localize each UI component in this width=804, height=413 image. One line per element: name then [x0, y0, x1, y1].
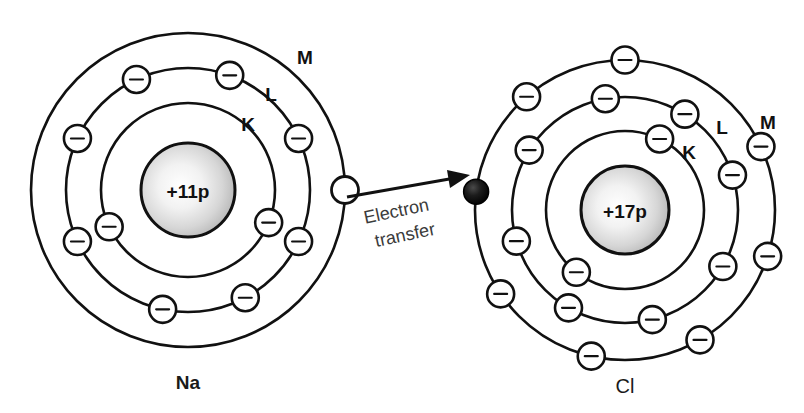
shell-label-L-chlorine: L	[716, 117, 728, 138]
nucleus-label-chlorine: +17p	[603, 201, 647, 222]
shell-label-L-sodium: L	[265, 84, 277, 105]
shell-label-M-chlorine: M	[760, 112, 776, 133]
electron-transfer-arrow	[347, 170, 470, 197]
electron-transfer-label: Electron transfer	[362, 194, 437, 252]
atom-symbol-sodium: Na	[176, 372, 201, 393]
atom-sodium: +11pKLMNa	[31, 33, 359, 393]
shell-label-K-sodium: K	[241, 114, 255, 135]
electron-vacancy	[332, 177, 359, 204]
atom-symbol-chlorine: Cl	[616, 375, 635, 397]
atom-chlorine: +17pKLMCl	[464, 47, 782, 398]
shell-label-M-sodium: M	[297, 47, 313, 68]
arrow-shaft	[347, 178, 455, 197]
diagram-canvas: +11pKLMNa +17pKLMCl Electron transfer	[0, 0, 804, 413]
electron-transferred	[464, 179, 489, 204]
nucleus-label-sodium: +11p	[167, 181, 210, 202]
electron-transfer-diagram: +11pKLMNa +17pKLMCl Electron transfer	[0, 0, 804, 413]
shell-label-K-chlorine: K	[682, 142, 696, 163]
